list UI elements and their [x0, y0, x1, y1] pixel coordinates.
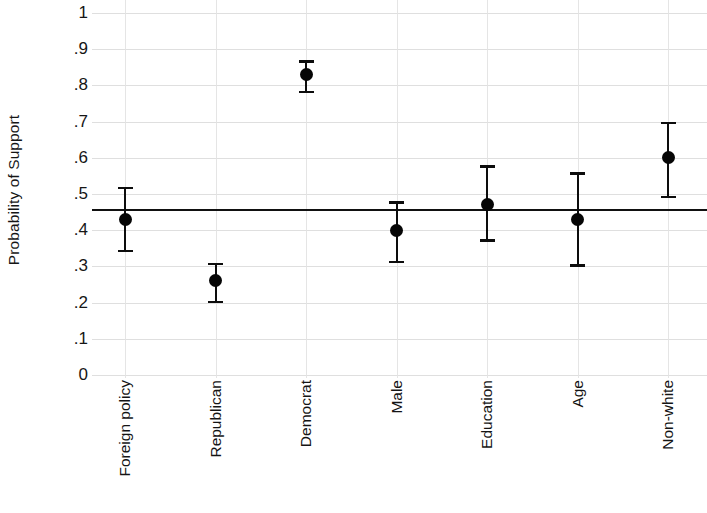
y-axis-tick-label: .3: [42, 257, 88, 274]
data-point-marker[interactable]: [662, 151, 675, 164]
data-point-marker[interactable]: [390, 224, 403, 237]
x-axis-tick-label-text: Foreign policy: [117, 380, 133, 481]
error-bar-cap-lower: [570, 264, 585, 267]
gridline-horizontal: [92, 13, 707, 14]
gridline-vertical: [306, 0, 307, 378]
gridline-horizontal: [92, 49, 707, 50]
error-bar-cap-lower: [480, 239, 495, 242]
error-bar-cap-upper: [480, 165, 495, 168]
gridline-vertical: [216, 0, 217, 378]
gridline-horizontal: [92, 375, 707, 376]
data-point-marker[interactable]: [209, 274, 222, 287]
y-axis-title-text: Probability of Support: [5, 115, 23, 265]
y-axis-tick-label: .6: [42, 149, 88, 166]
data-point-marker[interactable]: [119, 213, 132, 226]
x-axis-tick-label-text: Republican: [208, 380, 224, 462]
error-bar-cap-lower: [661, 196, 676, 199]
gridline-vertical: [397, 0, 398, 378]
data-point-marker[interactable]: [300, 68, 313, 81]
gridline-horizontal: [92, 158, 707, 159]
y-axis-tick-label: .2: [42, 294, 88, 311]
error-bar-cap-upper: [570, 172, 585, 175]
error-bar-cap-lower: [389, 261, 404, 264]
gridline-horizontal: [92, 122, 707, 123]
error-bar-cap-upper: [299, 60, 314, 63]
y-axis-tick-label: .4: [42, 221, 88, 238]
y-axis-tick-label: .8: [42, 76, 88, 93]
reference-line: [92, 209, 707, 211]
x-axis-tick-label-text: Democrat: [298, 380, 314, 451]
error-bar-cap-upper: [208, 263, 223, 266]
x-axis-tick-label-text: Age: [570, 380, 586, 412]
gridline-horizontal: [92, 85, 707, 86]
x-axis-tick-label-text: Male: [389, 380, 405, 418]
x-axis-tick-labels: Foreign policyRepublicanDemocratMaleEduc…: [92, 380, 707, 513]
error-bar-cap-lower: [208, 301, 223, 304]
gridline-horizontal: [92, 266, 707, 267]
y-axis-tick-label: .9: [42, 40, 88, 57]
gridline-horizontal: [92, 339, 707, 340]
error-bar-cap-upper: [389, 201, 404, 204]
plot-area: [92, 0, 707, 378]
y-axis-tick-label: .1: [42, 330, 88, 347]
data-point-marker[interactable]: [571, 213, 584, 226]
error-bar-cap-upper: [661, 122, 676, 125]
gridline-horizontal: [92, 194, 707, 195]
y-axis-tick-label: 1: [42, 4, 88, 21]
error-bar-cap-lower: [299, 91, 314, 94]
error-bar-cap-upper: [118, 187, 133, 190]
y-axis-tick-labels: 0.1.2.3.4.5.6.7.8.91: [38, 0, 88, 390]
y-axis-tick-label: .5: [42, 185, 88, 202]
x-axis-tick-label: Non-white: [660, 380, 707, 510]
gridline-horizontal: [92, 303, 707, 304]
x-axis-tick-label-text: Education: [479, 380, 495, 453]
data-point-marker[interactable]: [481, 198, 494, 211]
error-bar-cap-lower: [118, 250, 133, 253]
y-axis-tick-label: .7: [42, 113, 88, 130]
coefficient-plot: Probability of Support 0.1.2.3.4.5.6.7.8…: [0, 0, 707, 513]
x-axis-tick-label-text: Non-white: [660, 380, 676, 454]
y-axis-title: Probability of Support: [0, 0, 28, 380]
y-axis-tick-label: 0: [42, 366, 88, 383]
